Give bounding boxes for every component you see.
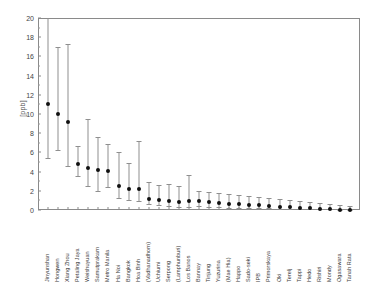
error-bar bbox=[138, 141, 139, 201]
error-bar-cap-upper bbox=[247, 196, 252, 197]
x-tick-label: Bannay bbox=[195, 263, 201, 282]
x-tick-label: Los Banos bbox=[185, 256, 191, 282]
error-bar-cap-upper bbox=[136, 141, 141, 142]
y-tick-minor bbox=[38, 162, 40, 163]
error-bar-cap-lower bbox=[197, 206, 202, 207]
data-point bbox=[127, 187, 131, 191]
error-bar bbox=[118, 152, 119, 198]
x-tick-label: (Vadhanadhorn) bbox=[145, 242, 151, 282]
error-bar-cap-upper bbox=[156, 185, 161, 186]
error-bar-cap-lower bbox=[126, 200, 131, 201]
error-bar-cap-lower bbox=[237, 208, 242, 209]
x-tick-mark bbox=[98, 207, 99, 210]
data-point bbox=[66, 120, 70, 124]
y-tick-minor bbox=[38, 46, 40, 47]
y-tick-label: 8 bbox=[6, 130, 34, 137]
data-point bbox=[267, 204, 271, 208]
x-tick-label: (Mae Hia) bbox=[225, 257, 231, 282]
error-bar-cap-lower bbox=[96, 191, 101, 192]
y-tick-label: 20 bbox=[6, 15, 34, 22]
y-tick-mark bbox=[38, 210, 41, 211]
data-point bbox=[227, 202, 231, 206]
data-point bbox=[237, 202, 241, 206]
error-bar-cap-lower bbox=[76, 176, 81, 177]
x-tick-label: Metro Manila bbox=[104, 250, 110, 282]
y-tick-minor bbox=[38, 66, 40, 67]
y-tick-mark bbox=[38, 56, 41, 57]
x-tick-mark bbox=[68, 207, 69, 210]
error-bar-cap-lower bbox=[106, 187, 111, 188]
y-tick-mark bbox=[38, 190, 41, 191]
data-point bbox=[56, 112, 60, 116]
y-tick-label: 2 bbox=[6, 187, 34, 194]
data-point bbox=[318, 207, 322, 211]
error-bar-cap-upper bbox=[337, 205, 342, 206]
data-point bbox=[86, 166, 90, 170]
plot-area: 02468101214161820 bbox=[38, 18, 360, 210]
data-point bbox=[96, 168, 100, 172]
x-tick-label: Sado-seki bbox=[245, 257, 251, 282]
x-tick-mark bbox=[168, 207, 169, 210]
error-bar-cap-upper bbox=[297, 201, 302, 202]
x-tick-label: Samutprakarn bbox=[94, 247, 100, 282]
chart-container: [ppb] 02468101214161820 JinyunshanHongwe… bbox=[0, 0, 376, 284]
x-tick-label: IPB bbox=[255, 273, 261, 282]
y-tick-minor bbox=[38, 142, 40, 143]
error-bar-cap-upper bbox=[56, 47, 61, 48]
data-point bbox=[106, 169, 110, 173]
data-point bbox=[76, 162, 80, 166]
data-point bbox=[137, 187, 141, 191]
y-tick-mark bbox=[38, 94, 41, 95]
x-tick-label: Oki bbox=[276, 274, 282, 282]
error-bar-cap-upper bbox=[166, 184, 171, 185]
error-bar-cap-upper bbox=[227, 194, 232, 195]
error-bar-cap-lower bbox=[257, 208, 262, 209]
data-point bbox=[46, 102, 50, 106]
data-point bbox=[328, 207, 332, 211]
y-tick-label: 16 bbox=[6, 53, 34, 60]
y-tick-label: 0 bbox=[6, 207, 34, 214]
x-tick-label: Ha Noi bbox=[115, 265, 121, 282]
data-point bbox=[147, 197, 151, 201]
x-tick-label: Rishiri bbox=[316, 266, 322, 282]
data-point bbox=[278, 205, 282, 209]
x-tick-label: Petaling Jaya bbox=[74, 248, 80, 282]
x-tick-mark bbox=[128, 207, 129, 210]
error-bar bbox=[58, 47, 59, 151]
error-bar-cap-upper bbox=[76, 146, 81, 147]
x-tick-label: Hoa Binh bbox=[135, 259, 141, 282]
data-point bbox=[207, 200, 211, 204]
data-point bbox=[247, 203, 251, 207]
error-bar bbox=[148, 182, 149, 204]
error-bar-cap-upper bbox=[317, 203, 322, 204]
error-bar bbox=[108, 144, 109, 187]
error-bar-cap-lower bbox=[186, 207, 191, 208]
error-bar-cap-upper bbox=[146, 182, 151, 183]
error-bar-cap-upper bbox=[106, 144, 111, 145]
x-tick-label: Jinyunshan bbox=[44, 254, 50, 282]
error-bar-cap-upper bbox=[207, 192, 212, 193]
y-tick-minor bbox=[38, 200, 40, 201]
error-bar-cap-upper bbox=[237, 195, 242, 196]
error-bar-cap-upper bbox=[277, 199, 282, 200]
x-tick-mark bbox=[138, 207, 139, 210]
error-bar bbox=[88, 119, 89, 186]
x-tick-label: Hongwen bbox=[54, 258, 60, 282]
error-bar-cap-upper bbox=[327, 204, 332, 205]
data-point bbox=[187, 199, 191, 203]
y-tick-label: 4 bbox=[6, 168, 34, 175]
y-tick-mark bbox=[38, 18, 41, 19]
x-tick-label: Primorskaya bbox=[265, 251, 271, 282]
x-tick-label: Tanah Rata bbox=[346, 253, 352, 282]
y-tick-label: 10 bbox=[6, 111, 34, 118]
y-tick-label: 6 bbox=[6, 149, 34, 156]
x-tick-label: Ogasawara bbox=[336, 253, 342, 282]
data-point bbox=[197, 199, 201, 203]
y-tick-label: 14 bbox=[6, 72, 34, 79]
error-bar-cap-upper bbox=[176, 186, 181, 187]
error-bar-cap-upper bbox=[86, 119, 91, 120]
error-bar-cap-upper bbox=[347, 206, 352, 207]
error-bar-cap-lower bbox=[207, 207, 212, 208]
x-tick-label: Mondy bbox=[326, 265, 332, 282]
x-tick-label: Terelj bbox=[286, 269, 292, 282]
